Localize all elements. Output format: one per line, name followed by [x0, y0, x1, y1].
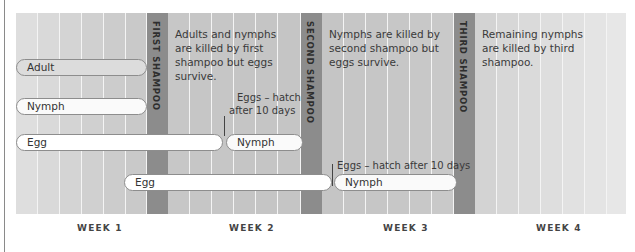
egg-stage-bar: Egg: [16, 134, 223, 151]
first-shampoo-label: FIRST SHAMPOO: [151, 21, 161, 111]
hatch-tick-2: [332, 164, 333, 186]
second-shampoo-label: SECOND SHAMPOO: [305, 21, 315, 124]
third-shampoo-label: THIRD SHAMPOO: [458, 21, 468, 113]
day-column: [607, 13, 626, 214]
hatch-tick-1: [224, 116, 225, 136]
frame-border: [4, 0, 5, 252]
week-1-label: WEEK 1: [77, 223, 123, 233]
nymph-stage-bar-2: Nymph: [226, 134, 303, 151]
third-shampoo-band: THIRD SHAMPOO: [454, 13, 475, 214]
week-4-label: WEEK 4: [536, 223, 582, 233]
third-shampoo-note: Remaining nymphs are killed by third sha…: [482, 27, 602, 69]
hatch-annotation-1: Eggs – hatch after 10 days: [229, 91, 301, 117]
first-shampoo-note: Adults and nymphs are killed by first sh…: [175, 27, 295, 83]
hatch-annotation-2: Eggs – hatch after 10 days: [337, 159, 470, 173]
adult-stage-bar: Adult: [16, 59, 147, 76]
week-2-label: WEEK 2: [229, 223, 275, 233]
week-3-label: WEEK 3: [383, 223, 429, 233]
egg-stage-bar-2: Egg: [124, 174, 332, 191]
timeline-chart: FIRST SHAMPOO SECOND SHAMPOO THIRD SHAMP…: [16, 13, 626, 214]
second-shampoo-note: Nymphs are killed by second shampoo but …: [329, 27, 447, 69]
nymph-stage-bar-3: Nymph: [334, 174, 457, 191]
nymph-stage-bar: Nymph: [16, 98, 147, 115]
